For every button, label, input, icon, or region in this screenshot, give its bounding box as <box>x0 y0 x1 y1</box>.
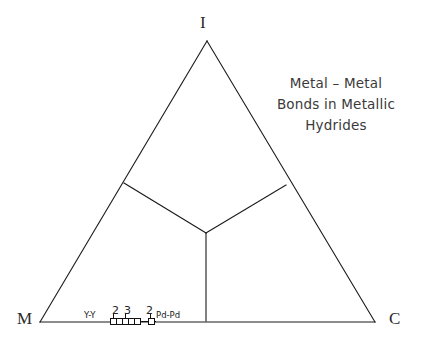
partition-branch-right <box>206 185 286 233</box>
figure-title-line-3: Hydrides <box>243 115 429 136</box>
scale-tick-label-1: 2 <box>112 305 119 316</box>
vertex-label-ionic: I <box>200 14 206 31</box>
bond-triangle-svg <box>0 0 437 349</box>
figure-canvas: M I C Metal – Metal Bonds in Metallic Hy… <box>0 0 437 349</box>
scale-box-4 <box>129 319 135 325</box>
scale-box-6 <box>149 319 155 325</box>
scale-tick-label-2: 3 <box>124 305 131 316</box>
scale-box-2 <box>117 319 123 325</box>
scale-box-3 <box>123 319 129 325</box>
scale-tick-label-3: 2 <box>146 305 153 316</box>
figure-title: Metal – Metal Bonds in Metallic Hydrides <box>243 73 429 136</box>
vertex-label-covalent: C <box>389 310 400 327</box>
triangle-edge-ionic-metallic <box>40 41 207 322</box>
scale-label-pd-pd: Pd-Pd <box>156 311 180 320</box>
scale-box-5 <box>135 319 141 325</box>
figure-title-line-1: Metal – Metal <box>243 73 429 94</box>
scale-label-y-y: Y-Y <box>84 311 95 320</box>
scale-box-1 <box>111 319 117 325</box>
partition-branch-left <box>124 183 206 233</box>
vertex-label-metallic: M <box>17 310 32 327</box>
figure-title-line-2: Bonds in Metallic <box>243 94 429 115</box>
